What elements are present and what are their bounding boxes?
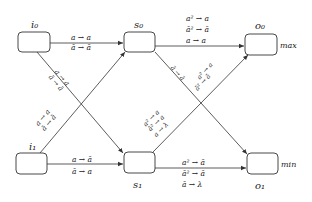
edge-label: a → a bbox=[186, 36, 206, 45]
node-label-s0: s₀ bbox=[134, 19, 143, 30]
edge-label: ā → ā bbox=[71, 43, 91, 52]
edge-label: ā² → ā bbox=[186, 25, 209, 34]
edge-label: a → ā bbox=[72, 155, 92, 164]
node-s1 bbox=[124, 152, 155, 173]
node-i1 bbox=[16, 153, 47, 174]
edge-label: a² → ā bbox=[182, 158, 205, 167]
side-label-min: min bbox=[281, 160, 296, 169]
node-s0 bbox=[124, 32, 155, 52]
node-label-o1: o₁ bbox=[255, 180, 265, 191]
edge-label: a² → a bbox=[186, 14, 209, 23]
node-label-s1: s₁ bbox=[133, 179, 142, 190]
node-label-i1: i₁ bbox=[29, 141, 36, 152]
edge-label: ā → λ bbox=[182, 180, 203, 189]
edge-label: ā² → ā bbox=[182, 169, 205, 178]
node-i0 bbox=[18, 32, 50, 52]
node-o1 bbox=[247, 153, 278, 174]
edge-label: ā → ā bbox=[169, 64, 187, 82]
node-label-i0: i₀ bbox=[31, 19, 38, 30]
automaton-diagram: i₀ s₀ o₀ i₁ s₁ o₁ max min a → a ā → ā a … bbox=[0, 0, 312, 202]
edge-i0-s1 bbox=[37, 52, 123, 153]
node-o0 bbox=[245, 34, 277, 55]
node-label-o0: o₀ bbox=[255, 20, 265, 31]
edge-label: a → a bbox=[71, 33, 91, 42]
edge-label: ā → a bbox=[72, 167, 92, 176]
side-label-max: max bbox=[280, 41, 297, 50]
edge-i1-s0 bbox=[40, 52, 125, 153]
